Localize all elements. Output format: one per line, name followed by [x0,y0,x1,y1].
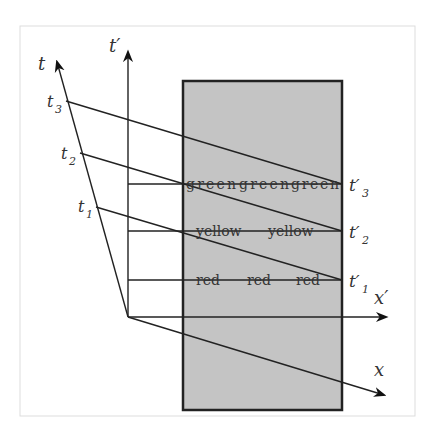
svg-text:yellow: yellow [195,223,242,239]
svg-text:red: red [296,272,320,288]
svg-text:t: t [47,92,54,111]
t-tick-1: t 1 [78,197,93,221]
svg-text:1: 1 [362,283,369,296]
t-axis-label: t [38,53,46,74]
t-prime-axis-label: t′ [109,35,120,56]
svg-text:red: red [247,272,271,288]
svg-text:t′: t′ [349,271,360,291]
svg-text:green: green [239,176,289,192]
x-axis-label: x [374,359,384,380]
svg-text:t: t [61,144,68,163]
t-prime-tick-1: t′ 1 [349,271,369,296]
t-prime-tick-3: t′ 3 [349,175,369,200]
spacetime-diagram: t t′ x′ x t 3 t 2 t 1 t′ 3 t′ 2 t′ 1 gre… [0,0,436,446]
svg-text:t′: t′ [349,222,360,242]
t-tick-3: t 3 [47,92,62,116]
svg-text:green: green [291,176,339,192]
svg-text:t: t [78,197,85,216]
t-prime-tick-2: t′ 2 [349,222,369,247]
svg-text:yellow: yellow [267,223,314,239]
svg-text:2: 2 [68,155,76,168]
svg-text:3: 3 [55,103,62,116]
svg-text:red: red [196,272,220,288]
svg-text:2: 2 [361,234,369,247]
row-green: green green green [186,176,339,192]
svg-text:t′: t′ [349,175,360,195]
svg-text:3: 3 [362,187,369,200]
svg-text:1: 1 [86,208,93,221]
t-tick-2: t 2 [61,144,76,168]
shaded-region [183,81,342,410]
row-red: red red red [196,272,320,288]
x-prime-axis-label: x′ [374,287,388,308]
t-axis [57,62,128,317]
svg-text:green: green [186,176,236,192]
